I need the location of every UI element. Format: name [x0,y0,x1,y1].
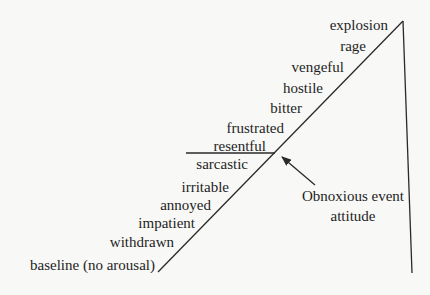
label-withdrawn: withdrawn [110,235,174,250]
label-sarcastic: sarcastic [196,157,248,172]
label-hostile: hostile [283,81,323,96]
label-explosion: explosion [330,18,388,33]
event-arrow-icon [282,157,315,185]
label-vengeful: vengeful [292,60,344,75]
label-frustrated: frustrated [227,121,284,136]
escalation-ramp-line [158,21,403,272]
descent-line [403,21,412,273]
label-bitter: bitter [270,101,302,116]
annotation-attitude: attitude [298,209,408,224]
label-rage: rage [340,39,366,54]
label-impatient: impatient [138,216,195,231]
escalation-diagram: explosion rage vengeful hostile bitter f… [0,0,430,295]
annotation-obnoxious-event: Obnoxious event [298,189,408,204]
label-resentful: resentful [214,139,266,154]
label-annoyed: annoyed [160,198,211,213]
label-baseline: baseline (no arousal) [30,258,155,273]
label-irritable: irritable [182,180,229,195]
